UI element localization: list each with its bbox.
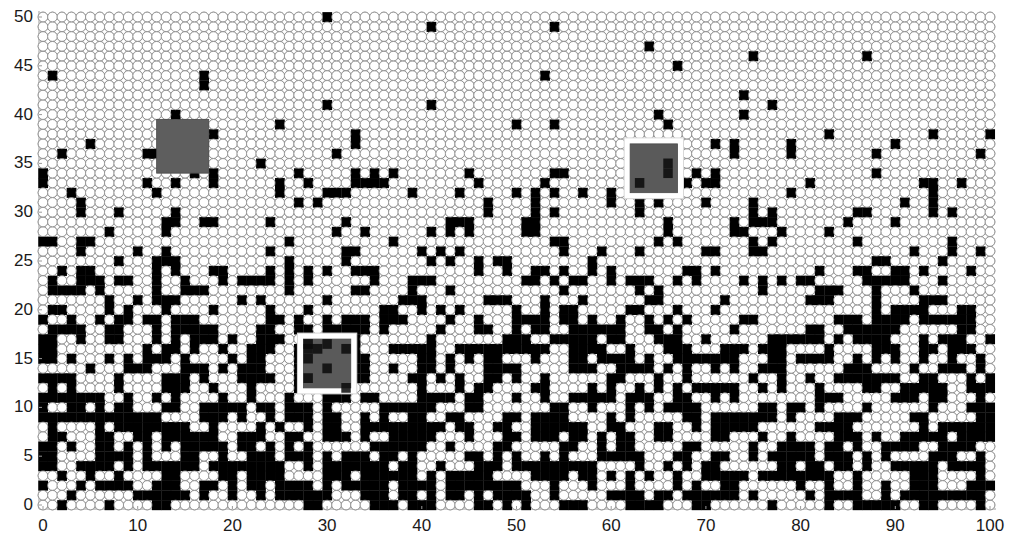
occupied-site	[928, 188, 938, 198]
empty-site-overlay	[67, 159, 77, 169]
occupied-site	[152, 500, 162, 510]
empty-site-overlay	[521, 256, 531, 266]
empty-site-overlay	[341, 139, 351, 149]
empty-site-overlay	[786, 344, 796, 354]
empty-site-overlay	[815, 490, 825, 500]
empty-site-overlay	[502, 139, 512, 149]
empty-site-overlay	[928, 442, 938, 452]
empty-site-overlay	[67, 198, 77, 208]
occupied-site	[796, 334, 806, 344]
occupied-site	[57, 471, 67, 481]
empty-site-overlay	[86, 295, 96, 305]
empty-site-overlay	[938, 129, 948, 139]
empty-site-overlay	[265, 500, 275, 510]
occupied-site	[228, 490, 238, 500]
empty-site-overlay	[692, 188, 702, 198]
x-tick-label: 100	[970, 517, 1010, 534]
empty-site-overlay	[332, 246, 342, 256]
empty-site-overlay	[67, 217, 77, 227]
empty-site-overlay	[796, 422, 806, 432]
empty-site-overlay	[133, 80, 143, 90]
empty-site-overlay	[303, 207, 313, 217]
empty-site-overlay	[284, 344, 294, 354]
empty-site-overlay	[701, 41, 711, 51]
empty-site-overlay	[824, 12, 834, 22]
empty-site-overlay	[748, 129, 758, 139]
empty-site-overlay	[389, 12, 399, 22]
occupied-site	[105, 295, 115, 305]
empty-site-overlay	[597, 471, 607, 481]
empty-site-overlay	[237, 188, 247, 198]
empty-site-overlay	[133, 61, 143, 71]
empty-site-overlay	[379, 246, 389, 256]
empty-site-overlay	[540, 90, 550, 100]
empty-site-overlay	[606, 159, 616, 169]
occupied-site	[199, 363, 209, 373]
occupied-site	[266, 334, 276, 344]
empty-site-overlay	[76, 422, 86, 432]
empty-site-overlay	[805, 198, 815, 208]
empty-site-overlay	[673, 285, 683, 295]
empty-site-overlay	[786, 22, 796, 32]
occupied-site	[152, 412, 162, 422]
occupied-site	[635, 207, 645, 217]
occupied-site	[502, 442, 512, 452]
empty-site-overlay	[294, 61, 304, 71]
empty-site-overlay	[673, 442, 683, 452]
empty-site-overlay	[758, 61, 768, 71]
empty-site-overlay	[559, 324, 569, 334]
occupied-site	[351, 178, 361, 188]
empty-site-overlay	[408, 168, 418, 178]
empty-site-overlay	[587, 227, 597, 237]
occupied-site	[398, 315, 408, 325]
empty-site-overlay	[796, 266, 806, 276]
occupied-site	[502, 334, 512, 344]
empty-site-overlay	[947, 22, 957, 32]
occupied-site	[247, 471, 257, 481]
empty-site-overlay	[351, 159, 361, 169]
empty-site-overlay	[142, 110, 152, 120]
empty-site-overlay	[644, 344, 654, 354]
occupied-site	[133, 295, 143, 305]
empty-site-overlay	[398, 227, 408, 237]
empty-site-overlay	[67, 500, 77, 510]
occupied-site	[872, 383, 882, 393]
empty-site-overlay	[606, 90, 616, 100]
empty-site-overlay	[133, 32, 143, 42]
empty-site-overlay	[862, 129, 872, 139]
empty-site-overlay	[663, 295, 673, 305]
empty-site-overlay	[436, 51, 446, 61]
empty-site-overlay	[720, 403, 730, 413]
empty-site-overlay	[890, 412, 900, 422]
empty-site-overlay	[805, 383, 815, 393]
occupied-site	[824, 393, 834, 403]
empty-site-overlay	[142, 500, 152, 510]
empty-site-overlay	[815, 500, 825, 510]
occupied-site	[379, 461, 389, 471]
empty-site-overlay	[748, 71, 758, 81]
empty-site-overlay	[834, 237, 844, 247]
empty-site-overlay	[985, 256, 995, 266]
empty-site-overlay	[815, 227, 825, 237]
empty-site-overlay	[417, 120, 427, 130]
empty-site-overlay	[114, 198, 124, 208]
empty-site-overlay	[57, 110, 67, 120]
empty-site-overlay	[152, 207, 162, 217]
empty-site-overlay	[48, 61, 58, 71]
occupied-site	[862, 324, 872, 334]
empty-site-overlay	[474, 217, 484, 227]
occupied-site	[209, 461, 219, 471]
empty-site-overlay	[720, 266, 730, 276]
occupied-site	[142, 422, 152, 432]
occupied-site	[749, 198, 759, 208]
occupied-site	[531, 217, 541, 227]
occupied-site	[767, 412, 777, 422]
empty-site-overlay	[426, 442, 436, 452]
empty-site-overlay	[199, 383, 209, 393]
empty-site-overlay	[247, 159, 257, 169]
occupied-site	[389, 305, 399, 315]
empty-site-overlay	[758, 373, 768, 383]
empty-site-overlay	[57, 90, 67, 100]
occupied-site	[67, 324, 77, 334]
empty-site-overlay	[767, 22, 777, 32]
